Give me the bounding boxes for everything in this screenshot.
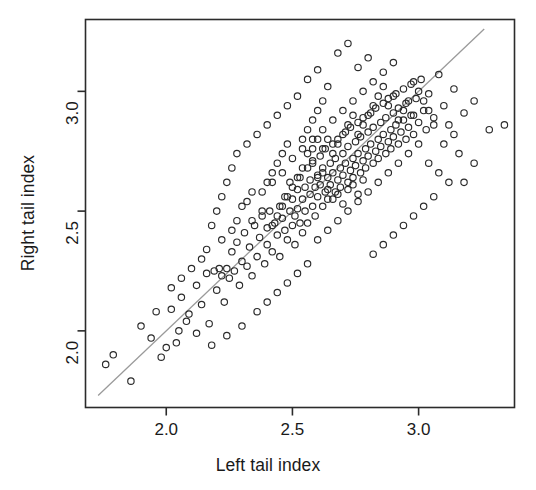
data-point bbox=[325, 83, 331, 89]
data-point bbox=[350, 174, 356, 180]
data-point bbox=[375, 93, 381, 99]
data-point bbox=[335, 217, 341, 223]
data-point bbox=[383, 115, 389, 121]
data-point bbox=[314, 194, 320, 200]
data-point bbox=[289, 222, 295, 228]
data-point bbox=[148, 335, 154, 341]
data-point bbox=[264, 241, 270, 247]
data-point bbox=[370, 124, 376, 130]
data-point bbox=[441, 103, 447, 109]
data-point bbox=[178, 275, 184, 281]
y-tick-label: 2.5 bbox=[63, 221, 83, 245]
data-point bbox=[314, 67, 320, 73]
data-point bbox=[380, 241, 386, 247]
data-point bbox=[330, 117, 336, 123]
data-point bbox=[173, 340, 179, 346]
data-point bbox=[365, 129, 371, 135]
data-point bbox=[350, 112, 356, 118]
data-point bbox=[274, 160, 280, 166]
data-point bbox=[365, 189, 371, 195]
data-point bbox=[415, 141, 421, 147]
data-point bbox=[282, 227, 288, 233]
data-point bbox=[214, 287, 220, 293]
data-point bbox=[297, 220, 303, 226]
data-point bbox=[360, 88, 366, 94]
x-axis-ticks bbox=[166, 408, 418, 416]
data-point bbox=[350, 98, 356, 104]
data-point bbox=[314, 237, 320, 243]
data-point bbox=[423, 126, 429, 132]
data-point bbox=[284, 103, 290, 109]
data-point bbox=[224, 265, 230, 271]
data-points bbox=[102, 40, 507, 384]
data-point bbox=[325, 227, 331, 233]
data-point bbox=[345, 143, 351, 149]
data-point bbox=[226, 275, 232, 281]
data-point bbox=[249, 273, 255, 279]
data-point bbox=[302, 208, 308, 214]
data-point bbox=[340, 107, 346, 113]
data-point bbox=[234, 150, 240, 156]
plot-border bbox=[86, 20, 515, 408]
data-point bbox=[219, 194, 225, 200]
data-point bbox=[380, 83, 386, 89]
data-point bbox=[274, 289, 280, 295]
data-point bbox=[327, 160, 333, 166]
data-point bbox=[304, 150, 310, 156]
data-point bbox=[378, 143, 384, 149]
data-point bbox=[431, 194, 437, 200]
data-point bbox=[352, 162, 358, 168]
data-point bbox=[289, 155, 295, 161]
data-point bbox=[385, 138, 391, 144]
data-point bbox=[302, 184, 308, 190]
data-point bbox=[426, 160, 432, 166]
x-axis-title: Left tail index bbox=[0, 455, 536, 476]
data-point bbox=[304, 126, 310, 132]
data-point bbox=[110, 352, 116, 358]
data-point bbox=[224, 332, 230, 338]
data-point bbox=[420, 203, 426, 209]
data-point bbox=[370, 251, 376, 257]
data-point bbox=[234, 217, 240, 223]
data-point bbox=[224, 179, 230, 185]
data-point bbox=[241, 229, 247, 235]
data-point bbox=[214, 208, 220, 214]
data-point bbox=[254, 309, 260, 315]
y-tick-label: 2.0 bbox=[63, 341, 83, 365]
data-point bbox=[325, 136, 331, 142]
data-point bbox=[244, 263, 250, 269]
data-point bbox=[231, 268, 237, 274]
data-point bbox=[198, 301, 204, 307]
data-point bbox=[314, 107, 320, 113]
data-point bbox=[284, 141, 290, 147]
data-point bbox=[345, 40, 351, 46]
data-point bbox=[292, 241, 298, 247]
data-point bbox=[355, 150, 361, 156]
data-point bbox=[267, 208, 273, 214]
reference-line bbox=[98, 29, 484, 395]
scatter-plot-figure: Left tail index Right tail index 2.02.53… bbox=[0, 0, 536, 490]
plot-canvas bbox=[0, 0, 536, 490]
data-point bbox=[367, 141, 373, 147]
data-point bbox=[102, 361, 108, 367]
data-point bbox=[383, 150, 389, 156]
data-point bbox=[337, 184, 343, 190]
data-point bbox=[128, 378, 134, 384]
data-point bbox=[269, 170, 275, 176]
data-point bbox=[410, 213, 416, 219]
data-point bbox=[501, 122, 507, 128]
data-point bbox=[461, 179, 467, 185]
data-point bbox=[198, 256, 204, 262]
data-point bbox=[221, 299, 227, 305]
data-point bbox=[446, 122, 452, 128]
identity-reference-line bbox=[98, 29, 484, 395]
data-point bbox=[420, 98, 426, 104]
data-point bbox=[345, 208, 351, 214]
data-point bbox=[269, 249, 275, 255]
data-point bbox=[193, 282, 199, 288]
data-point bbox=[176, 328, 182, 334]
data-point bbox=[309, 146, 315, 152]
data-point bbox=[390, 134, 396, 140]
data-point bbox=[413, 95, 419, 101]
data-point bbox=[219, 237, 225, 243]
